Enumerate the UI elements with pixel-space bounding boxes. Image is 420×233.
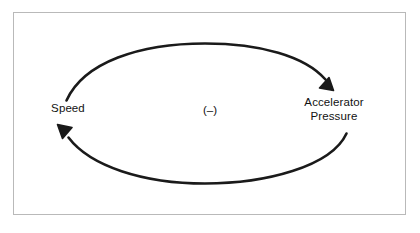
link-speed-to-accelerator-arrow: [67, 44, 334, 101]
node-label-speed: Speed: [40, 102, 96, 116]
causal-loop-diagram: Speed Accelerator Pressure (–): [0, 0, 420, 233]
loop-polarity-label: (–): [190, 104, 230, 116]
link-accelerator-to-speed-arrow: [58, 125, 347, 184]
node-label-accelerator-pressure: Accelerator Pressure: [290, 96, 378, 123]
